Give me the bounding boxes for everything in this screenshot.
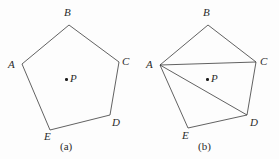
pentagon-diagram-canvas bbox=[0, 0, 279, 159]
interior-point-dot-figure-a bbox=[65, 78, 68, 81]
vertex-label-e-figure-a: E bbox=[44, 131, 51, 142]
pentagon-outline bbox=[160, 25, 256, 128]
vertex-label-c-figure-b: C bbox=[260, 56, 267, 67]
vertex-label-d-figure-a: D bbox=[112, 117, 120, 128]
caption-figure-b: (b) bbox=[198, 141, 211, 152]
interior-point-label-figure-a: P bbox=[70, 73, 77, 84]
diagonal-a-d bbox=[160, 65, 247, 115]
vertex-label-e-figure-b: E bbox=[182, 130, 189, 141]
interior-point-label-figure-b: P bbox=[211, 73, 218, 84]
vertex-label-a-figure-b: A bbox=[146, 59, 153, 70]
caption-figure-a: (a) bbox=[60, 141, 72, 152]
diagonal-a-c bbox=[160, 62, 256, 65]
diagram-page: ABCDEP(a)ABCDEP(b) bbox=[0, 0, 279, 159]
pentagon-shapes-group bbox=[22, 25, 256, 130]
vertex-label-b-figure-b: B bbox=[203, 7, 210, 18]
vertex-label-b-figure-a: B bbox=[64, 7, 71, 18]
vertex-label-c-figure-a: C bbox=[122, 56, 129, 67]
vertex-label-a-figure-a: A bbox=[8, 59, 15, 70]
vertex-label-d-figure-b: D bbox=[250, 117, 258, 128]
interior-point-dot-figure-b bbox=[206, 78, 209, 81]
